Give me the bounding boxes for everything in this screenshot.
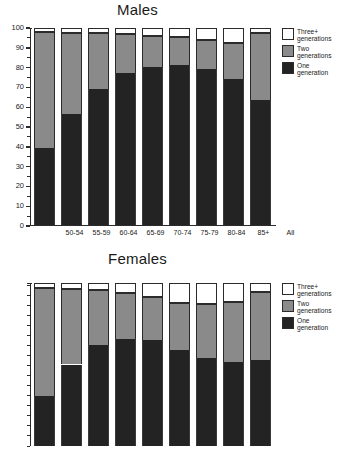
segment-three-plus-generations	[196, 28, 217, 40]
males-x-tick-labels: 50-5455-5960-6465-6970-7475-7980-8485+Al…	[61, 226, 306, 240]
bar-males-70-74	[142, 28, 163, 226]
males-y-tick-label-40: 40	[16, 142, 24, 151]
segment-two-generations	[196, 304, 217, 358]
bar-females-80-84	[196, 283, 217, 446]
bar-females-55-59	[61, 283, 82, 446]
segment-one-generation	[250, 360, 271, 446]
segment-one-generation	[34, 148, 55, 226]
males-y-tick-label-20: 20	[16, 181, 24, 190]
females-plot-area	[30, 283, 276, 446]
segment-one-generation	[34, 396, 55, 446]
segment-three-plus-generations	[196, 283, 217, 304]
bar-females-65-69	[115, 283, 136, 446]
males-legend-item-one: One generation	[282, 62, 339, 76]
females-legend-label-one: One generation	[297, 317, 339, 331]
segment-one-generation	[223, 79, 244, 226]
segment-three-plus-generations	[115, 283, 136, 293]
segment-three-plus-generations	[142, 283, 163, 297]
segment-three-plus-generations	[142, 28, 163, 36]
bar-females-60-64	[88, 283, 109, 446]
segment-one-generation	[142, 67, 163, 226]
females-legend-item-two: Two generations	[282, 300, 339, 314]
segment-two-generations	[142, 36, 163, 67]
bar-females-85plus	[223, 283, 244, 446]
segment-three-plus-generations	[223, 28, 244, 43]
segment-two-generations	[88, 290, 109, 345]
males-legend-label-one: One generation	[297, 62, 339, 76]
males-legend: Three+ generationsTwo generationsOne gen…	[282, 28, 339, 80]
males-legend-item-three: Three+ generations	[282, 28, 339, 42]
segment-two-generations	[61, 33, 82, 114]
segment-two-generations	[250, 292, 271, 360]
bar-males-50-54	[34, 28, 55, 226]
segment-two-generations	[61, 289, 82, 364]
males-y-tick-label-60: 60	[16, 102, 24, 111]
segment-one-generation	[196, 69, 217, 226]
males-legend-swatch-two-icon	[282, 45, 294, 57]
bar-females-70-74	[142, 283, 163, 446]
segment-three-plus-generations	[223, 283, 244, 302]
segment-two-generations	[223, 43, 244, 80]
segment-two-generations	[223, 302, 244, 362]
x-tick-label-males-All: All	[274, 229, 308, 236]
segment-one-generation	[88, 89, 109, 226]
females-bar-group	[31, 283, 276, 446]
bar-males-65-69	[115, 28, 136, 226]
segment-two-generations	[169, 37, 190, 65]
males-legend-label-three: Three+ generations	[297, 28, 339, 42]
females-legend-swatch-one-icon	[282, 317, 294, 329]
segment-one-generation	[61, 365, 82, 447]
segment-one-generation	[196, 358, 217, 446]
males-plot-area: 50-5455-5960-6465-6970-7475-7980-8485+Al…	[30, 28, 276, 226]
females-legend: Three+ generationsTwo generationsOne gen…	[282, 283, 339, 335]
males-y-tick-label-0: 0	[20, 221, 24, 230]
segment-two-generations	[34, 32, 55, 148]
segment-one-generation	[142, 340, 163, 446]
segment-one-generation	[88, 345, 109, 446]
segment-one-generation	[169, 65, 190, 226]
bar-males-75-79	[169, 28, 190, 226]
males-y-tick-label-100: 100	[11, 23, 24, 32]
males-legend-swatch-three-icon	[282, 28, 294, 40]
segment-two-generations	[115, 34, 136, 73]
segment-two-generations	[169, 303, 190, 350]
segment-one-generation	[115, 73, 136, 226]
bar-males-60-64	[88, 28, 109, 226]
bar-males-85plus	[223, 28, 244, 226]
females-chart-title: Females	[0, 250, 275, 267]
males-y-tick-label-50: 50	[16, 122, 24, 131]
bar-males-80-84	[196, 28, 217, 226]
segment-two-generations	[142, 297, 163, 340]
males-bar-group	[31, 28, 276, 226]
segment-one-generation	[115, 339, 136, 446]
males-legend-item-two: Two generations	[282, 45, 339, 59]
segment-one-generation	[250, 100, 271, 226]
males-y-tick-label-70: 70	[16, 82, 24, 91]
figure-root: Males 0102030405060708090100 50-5455-596…	[0, 0, 339, 450]
bar-males-All	[250, 28, 271, 226]
segment-two-generations	[88, 33, 109, 89]
females-legend-label-three: Three+ generations	[297, 283, 339, 297]
segment-one-generation	[223, 362, 244, 446]
males-y-tick-label-90: 90	[16, 43, 24, 52]
segment-three-plus-generations	[169, 283, 190, 303]
segment-three-plus-generations	[250, 283, 271, 292]
females-legend-swatch-three-icon	[282, 283, 294, 295]
females-legend-swatch-two-icon	[282, 300, 294, 312]
males-legend-label-two: Two generations	[297, 45, 339, 59]
females-legend-label-two: Two generations	[297, 300, 339, 314]
bar-females-All	[250, 283, 271, 446]
segment-two-generations	[34, 288, 55, 396]
males-y-tick-label-10: 10	[16, 201, 24, 210]
bar-females-50-54	[34, 283, 55, 446]
segment-three-plus-generations	[88, 283, 109, 290]
males-legend-swatch-one-icon	[282, 62, 294, 74]
segment-one-generation	[169, 350, 190, 446]
males-y-tick-label-80: 80	[16, 63, 24, 72]
bar-males-55-59	[61, 28, 82, 226]
males-chart-title: Males	[0, 1, 275, 18]
females-legend-item-one: One generation	[282, 317, 339, 331]
segment-two-generations	[115, 293, 136, 339]
females-legend-item-three: Three+ generations	[282, 283, 339, 297]
bar-females-75-79	[169, 283, 190, 446]
